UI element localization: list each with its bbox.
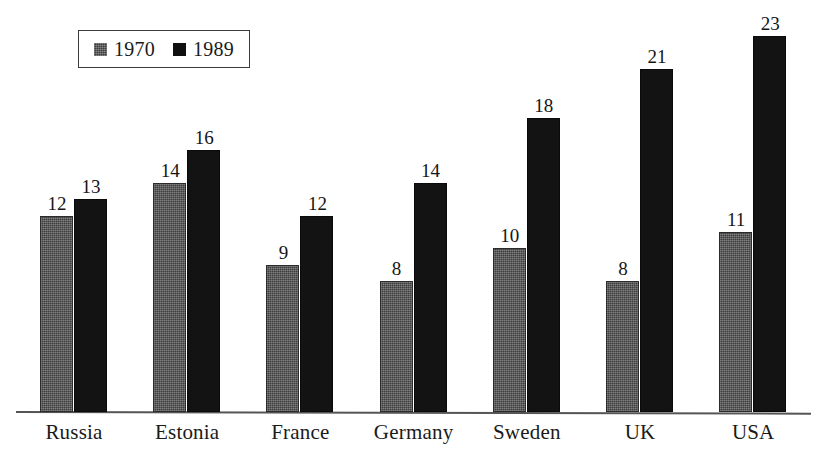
bar-value-label: 9 bbox=[279, 243, 289, 262]
bar-value-label: 11 bbox=[727, 210, 745, 229]
bar[interactable] bbox=[753, 36, 786, 412]
bar[interactable] bbox=[527, 118, 560, 412]
category-label: USA bbox=[683, 422, 823, 443]
bar-wrapper: 11 bbox=[719, 32, 753, 412]
bar-value-label: 12 bbox=[308, 194, 327, 213]
bar-wrapper: 16 bbox=[187, 32, 221, 412]
bar-wrapper: 14 bbox=[153, 32, 187, 412]
bar-chart: 1970 1989 1213Russia1416Estonia912France… bbox=[0, 0, 824, 474]
bar-value-label: 8 bbox=[618, 259, 628, 278]
bar-value-label: 8 bbox=[392, 259, 402, 278]
bar-group: 1123 bbox=[719, 32, 787, 412]
bar[interactable] bbox=[606, 281, 639, 412]
bar[interactable] bbox=[414, 183, 447, 412]
bar-value-label: 13 bbox=[82, 177, 101, 196]
bar-wrapper: 18 bbox=[527, 32, 561, 412]
bar-value-label: 10 bbox=[500, 226, 519, 245]
bar-wrapper: 21 bbox=[640, 32, 674, 412]
bar-value-label: 14 bbox=[421, 161, 440, 180]
bar[interactable] bbox=[640, 69, 673, 412]
bar[interactable] bbox=[719, 232, 752, 412]
bar-wrapper: 13 bbox=[74, 32, 108, 412]
bar-wrapper: 23 bbox=[753, 32, 787, 412]
bar-value-label: 14 bbox=[161, 161, 180, 180]
bar-value-label: 12 bbox=[48, 194, 67, 213]
bar[interactable] bbox=[40, 216, 73, 412]
bar[interactable] bbox=[266, 265, 299, 412]
bar-wrapper: 10 bbox=[493, 32, 527, 412]
bar-value-label: 16 bbox=[195, 128, 214, 147]
bar-group: 1018 bbox=[493, 32, 561, 412]
bar[interactable] bbox=[300, 216, 333, 412]
bar-group: 912 bbox=[266, 32, 334, 412]
bar-value-label: 21 bbox=[648, 47, 667, 66]
bar-wrapper: 12 bbox=[40, 32, 74, 412]
bar-group: 1213 bbox=[40, 32, 108, 412]
bar-value-label: 23 bbox=[761, 14, 780, 33]
bar-wrapper: 9 bbox=[266, 32, 300, 412]
plot-area: 1213Russia1416Estonia912France814Germany… bbox=[0, 0, 824, 474]
bar-wrapper: 14 bbox=[414, 32, 448, 412]
bar-value-label: 18 bbox=[534, 96, 553, 115]
bar-group: 821 bbox=[606, 32, 674, 412]
bar-wrapper: 8 bbox=[380, 32, 414, 412]
bar[interactable] bbox=[187, 150, 220, 412]
bar-wrapper: 8 bbox=[606, 32, 640, 412]
bar-wrapper: 12 bbox=[300, 32, 334, 412]
bar[interactable] bbox=[74, 199, 107, 412]
bar-group: 814 bbox=[380, 32, 448, 412]
bar[interactable] bbox=[493, 248, 526, 412]
bar[interactable] bbox=[153, 183, 186, 412]
bar-group: 1416 bbox=[153, 32, 221, 412]
bar[interactable] bbox=[380, 281, 413, 412]
